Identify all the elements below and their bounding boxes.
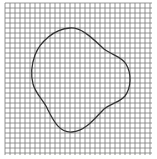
- grid-figure: [0, 0, 157, 159]
- background: [0, 0, 157, 159]
